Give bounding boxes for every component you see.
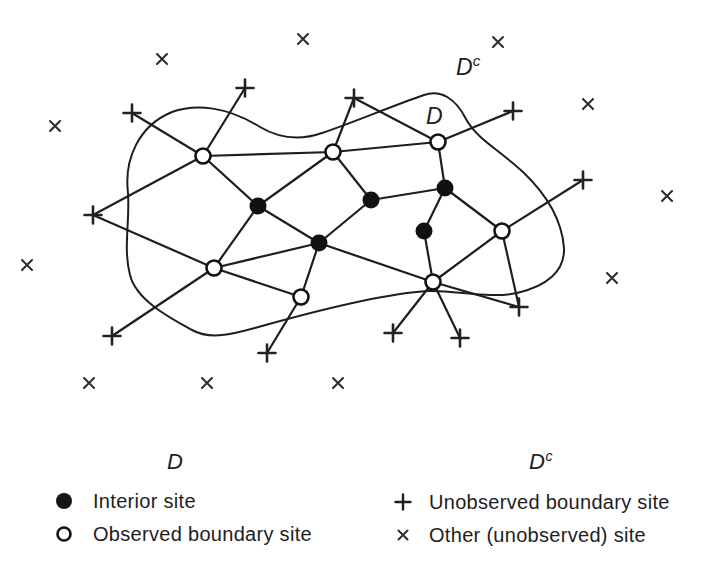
other-site-marker [157, 54, 167, 64]
site-network-diagram: DDc [0, 0, 726, 420]
observed-boundary-site [294, 290, 309, 305]
legend-item-label: Other (unobserved) site [429, 524, 646, 547]
other-site-marker [84, 378, 94, 388]
interior-site [363, 192, 380, 209]
observed-boundary-site [196, 149, 211, 164]
figure-page: DDc D Interior site Observed boundary si… [0, 0, 726, 565]
edge [112, 268, 214, 336]
other-site-marker [50, 121, 60, 131]
edge [203, 156, 258, 206]
unobserved-boundary-site-icon [394, 493, 412, 511]
edge [319, 243, 433, 282]
interior-site [437, 180, 454, 197]
legend-item-label: Interior site [93, 490, 196, 513]
unobserved-boundary-site-marker [124, 105, 141, 122]
interior-site [416, 223, 433, 240]
edge [393, 282, 433, 333]
edge [258, 206, 319, 243]
unobserved-boundary-site-marker [237, 80, 254, 97]
legend-item-observed-boundary-site: Observed boundary site [55, 522, 312, 546]
edge [319, 200, 371, 243]
other-site-marker [202, 378, 212, 388]
legend-complement-header-sup: c [545, 448, 553, 464]
legend-item-label: Observed boundary site [93, 523, 312, 546]
other-site-marker [493, 37, 503, 47]
edge [371, 188, 445, 200]
unobserved-boundary-site-marker [259, 345, 276, 362]
unobserved-boundary-site-marker [452, 330, 469, 347]
edge [438, 111, 513, 142]
other-site-marker [583, 99, 593, 109]
other-site-marker [22, 260, 32, 270]
edge [445, 188, 502, 231]
other-site-marker [333, 378, 343, 388]
other-site-marker [662, 191, 672, 201]
observed-boundary-site [326, 145, 341, 160]
interior-site [311, 235, 328, 252]
legend-item-interior-site: Interior site [55, 489, 196, 513]
other-site-marker [607, 273, 617, 283]
other-site-icon [394, 526, 412, 544]
observed-boundary-site [426, 275, 441, 290]
domain-complement-label: Dc [456, 52, 481, 80]
interior-site [250, 198, 267, 215]
edge [214, 268, 301, 297]
edge [258, 152, 333, 206]
unobserved-boundary-site-marker [346, 90, 363, 107]
domain-boundary [127, 93, 564, 335]
observed-boundary-site [495, 224, 510, 239]
edge [433, 231, 502, 282]
edge [93, 215, 214, 268]
other-site-marker [298, 34, 308, 44]
observed-boundary-site [207, 261, 222, 276]
edge [433, 282, 460, 338]
edge [333, 152, 371, 200]
domain-label: D [426, 103, 443, 129]
legend-item-other-site: Other (unobserved) site [394, 523, 646, 547]
edge [203, 152, 333, 156]
legend-complement-header-text: D [529, 449, 545, 474]
observed-boundary-site-icon [55, 525, 73, 543]
edge [333, 142, 438, 152]
legend-complement-header: Dc [529, 449, 553, 475]
unobserved-boundary-site-marker [85, 207, 102, 224]
legend-item-label: Unobserved boundary site [429, 491, 670, 514]
unobserved-boundary-site-marker [511, 299, 528, 316]
edge [502, 180, 583, 231]
edge [203, 88, 245, 156]
edge [93, 156, 203, 215]
legend-item-unobserved-boundary-site: Unobserved boundary site [394, 490, 670, 514]
legend-domain-header: D [167, 449, 183, 475]
interior-site-icon [55, 492, 73, 510]
unobserved-boundary-site-marker [104, 328, 121, 345]
unobserved-boundary-site-marker [505, 103, 522, 120]
observed-boundary-site [431, 135, 446, 150]
unobserved-boundary-site-marker [575, 172, 592, 189]
edge [267, 297, 301, 353]
legend-domain-header-text: D [167, 449, 183, 474]
